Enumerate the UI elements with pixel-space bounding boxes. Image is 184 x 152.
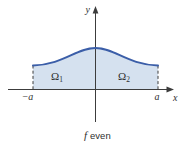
neg-a-bound-label: −a: [22, 91, 34, 102]
y-axis-label: y: [85, 4, 91, 15]
even-function-diagram: y x −a a Ω1 Ω2 feven: [0, 0, 184, 152]
region-omega2-subscript: 2: [126, 75, 130, 84]
region-omega2-symbol: Ω: [118, 70, 126, 82]
caption-property-word: even: [90, 130, 111, 141]
caption-function-symbol: f: [84, 129, 89, 141]
caption: feven: [84, 129, 111, 141]
y-axis-arrow-icon: [93, 6, 99, 14]
a-bound-label: a: [155, 91, 160, 102]
x-axis-label: x: [172, 92, 178, 103]
region-omega1-subscript: 1: [59, 75, 63, 84]
region-omega1-symbol: Ω: [51, 70, 59, 82]
diagram-canvas: y x −a a Ω1 Ω2 feven: [0, 0, 184, 152]
